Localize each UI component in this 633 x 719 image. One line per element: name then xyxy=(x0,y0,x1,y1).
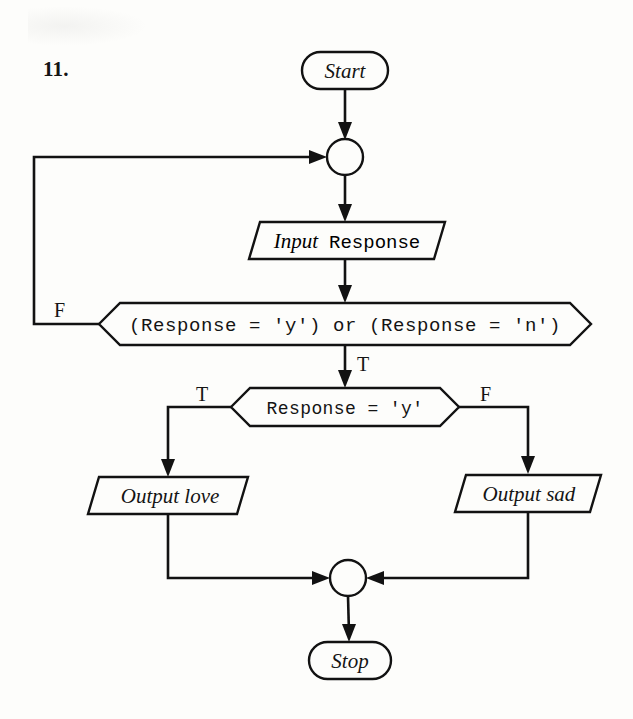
node-decision-valid: (Response = 'y') or (Response = 'n') xyxy=(99,303,591,345)
node-output-love: Output love xyxy=(88,477,248,514)
node-decision-valid-label: (Response = 'y') or (Response = 'n') xyxy=(129,315,561,337)
node-start: Start xyxy=(302,52,388,89)
node-output-sad-label: Output sad xyxy=(483,482,576,506)
branch-label-valid-true: T xyxy=(357,353,369,375)
node-stop: Stop xyxy=(309,642,391,679)
node-input-response-label: Input Response xyxy=(273,229,421,254)
edge-junction-to-input xyxy=(338,175,352,222)
flowchart-canvas: F T T F Start Input Response (Response =… xyxy=(0,0,633,719)
edge-start-to-junction xyxy=(338,89,352,140)
edge-isy-true-to-output-love xyxy=(161,407,231,477)
edge-output-sad-to-junction xyxy=(366,512,528,585)
node-output-love-label: Output love xyxy=(121,484,220,508)
node-input-variable: Response xyxy=(329,232,420,254)
node-input-keyword: Input xyxy=(273,229,319,253)
edge-isy-false-to-output-sad xyxy=(459,407,535,474)
edge-valid-true-to-decision-isy xyxy=(338,345,352,388)
branch-label-isy-false: F xyxy=(480,383,491,405)
edge-junction-to-stop xyxy=(342,596,356,642)
node-junction-bottom xyxy=(330,560,366,596)
node-input-response: Input Response xyxy=(249,222,445,259)
node-output-sad: Output sad xyxy=(455,475,601,512)
node-decision-isy-label: Response = 'y' xyxy=(267,399,424,419)
node-stop-label: Stop xyxy=(331,649,368,673)
flowchart-page: 11. xyxy=(0,0,633,719)
branch-label-isy-true: T xyxy=(196,383,208,405)
branch-label-loop-false: F xyxy=(54,299,65,321)
node-start-label: Start xyxy=(325,59,367,83)
node-junction-top xyxy=(327,139,363,175)
edge-output-love-to-junction xyxy=(168,514,330,585)
node-decision-isy: Response = 'y' xyxy=(231,388,459,426)
edge-input-to-decision-valid xyxy=(338,259,352,303)
